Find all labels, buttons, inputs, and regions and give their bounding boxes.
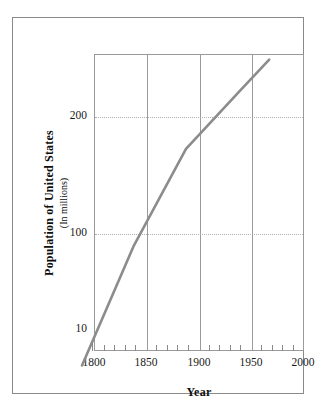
x-minor-tick: [230, 345, 231, 351]
x-minor-tick: [282, 345, 283, 351]
x-tick-label-1950: 1950: [231, 357, 271, 369]
x-minor-tick: [156, 345, 157, 351]
x-minor-tick: [240, 345, 241, 351]
x-tick-label-1800: 1800: [74, 357, 114, 369]
x-minor-tick: [135, 345, 136, 351]
x-minor-tick: [209, 345, 210, 351]
gridline-horizontal-200: [95, 117, 303, 118]
x-minor-tick: [125, 345, 126, 351]
x-minor-tick: [104, 345, 105, 351]
y-tick-label-10: 10: [27, 323, 87, 335]
gridline-horizontal-100: [95, 234, 303, 235]
x-axis-title: Year: [94, 385, 304, 400]
y-axis-title: Population of United States (In millions…: [42, 130, 69, 276]
y-tick-label-200: 200: [27, 110, 87, 122]
figure-outer-frame: Population of United States (In millions…: [12, 17, 304, 394]
x-minor-tick: [177, 345, 178, 351]
y-axis-title-sub: (In millions): [58, 130, 69, 276]
x-minor-tick: [92, 341, 93, 351]
x-tick-label-2000: 2000: [283, 357, 323, 369]
x-minor-tick: [272, 345, 273, 351]
chart-figure: Population of United States (In millions…: [0, 0, 324, 410]
x-minor-tick: [219, 345, 220, 351]
gridline-vertical-1850: [147, 55, 148, 350]
x-minor-tick: [261, 345, 262, 351]
x-minor-tick: [293, 345, 294, 351]
y-tick-label-100: 100: [27, 227, 87, 239]
x-minor-tick: [188, 345, 189, 351]
gridline-vertical-1950: [252, 55, 253, 350]
y-axis-title-container: Population of United States (In millions…: [40, 54, 70, 351]
y-axis-title-main: Population of United States: [42, 130, 57, 276]
gridline-vertical-1900: [200, 55, 201, 350]
x-tick-label-1900: 1900: [179, 357, 219, 369]
x-minor-tick: [114, 345, 115, 351]
x-tick-label-1850: 1850: [126, 357, 166, 369]
plot-area: [94, 54, 304, 351]
x-minor-tick: [167, 345, 168, 351]
